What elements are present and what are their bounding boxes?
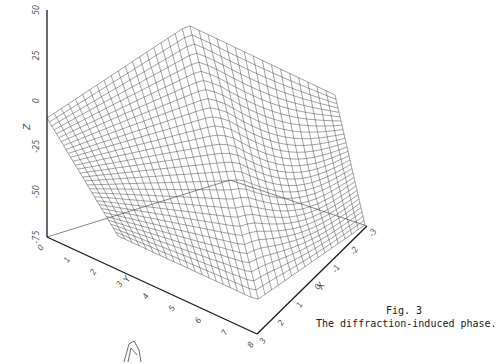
mesh-line: [59, 71, 340, 137]
mesh-line: [99, 190, 357, 226]
figure-caption: The diffraction-induced phase.: [316, 318, 497, 329]
mesh-line: [208, 35, 272, 290]
axis-ticks: 50250-25-50-75Z012345678Y3210-1-2-3X: [22, 5, 379, 349]
y-tick-label: 7: [219, 327, 230, 337]
z-axis-label: Z: [22, 123, 32, 131]
y-tick-label: 2: [88, 268, 98, 277]
x-tick-label: 1: [294, 300, 304, 309]
mesh-line: [326, 91, 358, 230]
mesh-line: [253, 56, 305, 267]
stray-mesh-fragment: [124, 341, 141, 362]
mesh-line: [317, 86, 352, 234]
mesh-line: [54, 53, 338, 130]
mesh-line: [83, 160, 351, 179]
y-tick-label: 0: [36, 243, 46, 252]
x-axis-label: X: [315, 280, 328, 292]
mesh-line: [61, 109, 132, 243]
wireframe-mesh: [47, 26, 365, 299]
y-tick-label: 5: [167, 304, 177, 313]
mesh-line: [190, 26, 258, 299]
mesh-line: [66, 99, 343, 150]
mesh-line: [90, 90, 160, 256]
z-tick-label: -75: [32, 230, 41, 243]
mesh-line: [217, 39, 278, 285]
mesh-line: [73, 126, 346, 161]
mesh-line: [182, 29, 251, 298]
mesh-line: [104, 199, 359, 244]
z-tick-label: 25: [32, 50, 41, 60]
z-tick-label: 50: [32, 5, 41, 15]
y-tick-label: 1: [62, 255, 72, 264]
mesh-line: [175, 34, 244, 295]
x-tick-label: -3: [367, 227, 379, 238]
mesh-line: [76, 99, 147, 249]
mesh-line: [109, 208, 362, 263]
z-tick-label: -25: [32, 140, 41, 153]
mesh-line: [54, 113, 125, 239]
x-tick-label: -2: [349, 245, 361, 256]
figure-number: Fig. 3: [386, 305, 422, 316]
mesh-line: [118, 225, 365, 299]
mesh-line: [83, 95, 154, 253]
z-tick-label: -50: [32, 185, 41, 198]
stray-mark: [124, 341, 141, 362]
x-tick-label: -1: [330, 263, 342, 274]
y-tick-label: 6: [193, 316, 203, 325]
surface-plot: 50250-25-50-75Z012345678Y3210-1-2-3X: [0, 0, 498, 364]
mesh-line: [168, 38, 237, 291]
mesh-line: [262, 60, 311, 262]
mesh-line: [68, 108, 344, 154]
mesh-line: [101, 195, 358, 236]
mesh-line: [52, 44, 337, 126]
mesh-line: [68, 104, 139, 246]
y-tick-label: 8: [246, 340, 256, 349]
mesh-line: [161, 43, 230, 288]
z-tick-label: 0: [32, 98, 41, 103]
x-tick-label: 3: [258, 336, 268, 345]
y-tick-label: 4: [141, 292, 151, 301]
x-tick-label: 2: [276, 318, 286, 327]
